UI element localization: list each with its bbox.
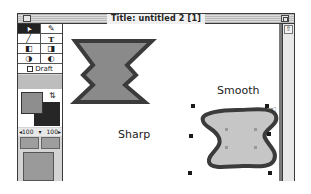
rounded-rect-icon: ◨ — [47, 44, 55, 53]
hand-cursor-icon: ☜ — [268, 104, 277, 115]
line-weight-box[interactable] — [20, 137, 39, 149]
sharp-label: Sharp — [118, 128, 150, 141]
text-tool[interactable]: T — [41, 34, 63, 43]
rounded-rect-tool[interactable]: ◨ — [41, 44, 63, 53]
smooth-label: Smooth — [217, 84, 259, 97]
selection-handle-top-left[interactable] — [191, 104, 195, 108]
line-tool[interactable]: ╱ — [18, 34, 41, 43]
draft-toggle[interactable]: Draft — [18, 64, 62, 74]
zoom-out-value[interactable]: ◂100 — [19, 128, 33, 136]
zoom-control[interactable]: ◂100 ▾ 100▸ — [18, 128, 62, 136]
selection-handle-bottom-right[interactable] — [268, 171, 272, 175]
scrollbar-shadow — [279, 24, 282, 181]
eyedropper-icon: ✎ — [48, 24, 55, 33]
arrow-tool[interactable]: ➤ — [18, 24, 41, 33]
shapes-layer — [63, 24, 283, 181]
rectangle-tool[interactable]: ◧ — [18, 44, 41, 53]
selection-handle-middle-left[interactable] — [189, 134, 193, 138]
scroll-up-arrow-icon[interactable]: ⇧ — [284, 25, 293, 34]
vertical-scrollbar[interactable]: ⇧ — [282, 24, 294, 181]
arrow-icon: ➤ — [24, 24, 34, 33]
fill-color-swatch[interactable] — [21, 92, 43, 114]
zoom-box-button[interactable] — [281, 15, 289, 22]
zoom-in-value[interactable]: 100▸ — [47, 128, 61, 136]
smooth-shape[interactable] — [203, 109, 277, 167]
pattern-bar[interactable] — [18, 75, 62, 89]
draft-label: Draft — [35, 65, 53, 73]
window-title: Title: untitled 2 [1] — [107, 14, 205, 24]
drawing-canvas[interactable]: Sharp Smooth ☜ — [63, 24, 283, 181]
arrowhead-box[interactable] — [41, 137, 60, 149]
line-style-boxes — [18, 137, 62, 149]
color-swatches: ⇅ — [18, 89, 62, 127]
oval-tool[interactable]: ◑ — [18, 54, 41, 63]
preview-box — [23, 152, 54, 181]
draft-checkbox[interactable] — [27, 66, 33, 72]
line-icon: ╱ — [26, 34, 31, 43]
oval-icon: ◑ — [25, 54, 32, 63]
freehand-tool[interactable]: ◐ — [41, 54, 63, 63]
text-icon: T — [48, 34, 54, 44]
title-bar[interactable]: Title: untitled 2 [1] — [18, 14, 294, 24]
drawing-window: Title: untitled 2 [1] ➤ ✎ ╱ T ◧ ◨ ◑ ◐ D — [17, 13, 295, 181]
selection-handle-middle-right[interactable] — [267, 132, 271, 136]
swap-colors-icon[interactable]: ⇅ — [49, 91, 56, 100]
zoom-menu-icon[interactable]: ▾ — [38, 128, 41, 136]
close-box-button[interactable] — [23, 15, 31, 22]
eyedropper-tool[interactable]: ✎ — [41, 24, 63, 33]
selection-handle-bottom-left[interactable] — [188, 171, 192, 175]
sharp-shape[interactable] — [75, 41, 152, 102]
freehand-icon: ◐ — [48, 54, 55, 63]
rectangle-icon: ◧ — [25, 44, 33, 53]
tool-grid: ➤ ✎ ╱ T ◧ ◨ ◑ ◐ Draft — [18, 24, 62, 74]
toolbox-panel: ➤ ✎ ╱ T ◧ ◨ ◑ ◐ Draft ⇅ — [18, 24, 63, 181]
